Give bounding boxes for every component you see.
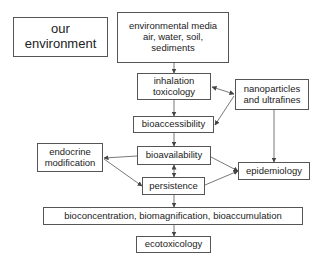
node-bioconcentration: bioconcentration, biomagnification, bioa…	[43, 207, 303, 225]
node-persistence-label: persistence	[149, 181, 198, 192]
node-bioaccessibility-label: bioaccessibility	[142, 119, 205, 130]
node-inhalation-toxicology-line-2: toxicology	[153, 87, 195, 98]
node-nanoparticles: nanoparticles and ultrafines	[235, 79, 309, 110]
edge-nanoparticles-inhalation	[212, 87, 234, 94]
node-endocrine-modification-line-2: modification	[45, 158, 96, 169]
node-ecotoxicology-label: ecotoxicology	[145, 239, 203, 250]
node-inhalation-toxicology: inhalation toxicology	[137, 73, 211, 100]
node-our-environment-line-1: our	[25, 22, 97, 37]
node-nanoparticles-line-2: and ultrafines	[243, 95, 300, 106]
node-persistence: persistence	[142, 177, 205, 195]
node-our-environment: our environment	[13, 17, 108, 57]
node-bioconcentration-label: bioconcentration, biomagnification, bioa…	[64, 211, 282, 222]
edge-nanoparticles-to-bioaccessibility	[215, 96, 234, 125]
edge-bioavailability-to-endocrine	[104, 156, 137, 158]
node-bioavailability-label: bioavailability	[146, 150, 203, 161]
node-bioavailability: bioavailability	[137, 146, 211, 165]
node-environmental-media-line-3: sediments	[129, 43, 217, 54]
node-nanoparticles-line-1: nanoparticles	[243, 84, 300, 95]
node-endocrine-modification: endocrine modification	[37, 143, 103, 172]
node-endocrine-modification-line-1: endocrine	[45, 147, 96, 158]
node-environmental-media: environmental media air, water, soil, se…	[117, 12, 229, 63]
node-epidemiology: epidemiology	[238, 162, 310, 180]
node-bioaccessibility: bioaccessibility	[133, 116, 214, 133]
edge-persistence-to-epidemiology	[205, 171, 238, 185]
node-ecotoxicology: ecotoxicology	[136, 236, 211, 253]
node-inhalation-toxicology-line-1: inhalation	[153, 76, 195, 87]
edge-bioavailability-to-epidemiology	[211, 157, 238, 171]
node-our-environment-line-2: environment	[25, 37, 97, 52]
node-epidemiology-label: epidemiology	[246, 166, 302, 177]
